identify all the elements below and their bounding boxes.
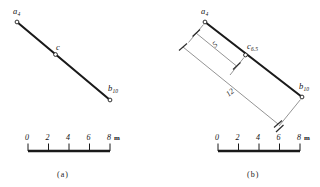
panel-a-scale-label-0: 0 xyxy=(25,133,29,142)
panel-b-scale-label-2: 2 xyxy=(236,133,240,142)
panel-b-label-a-text: a xyxy=(201,6,205,16)
panel-a-point-a-marker xyxy=(15,20,19,24)
panel-b-dimension-line-12 xyxy=(183,47,278,124)
panel-b-scale-unit: m xyxy=(304,134,310,142)
panel-b-label-a-subscript: 4 xyxy=(206,11,209,17)
panel-b-label-b: b10 xyxy=(299,81,309,91)
panel-b-caption: (b) xyxy=(247,170,259,179)
panel-a-scale-unit: m xyxy=(114,134,120,142)
panel-b-label-c: c6.5 xyxy=(247,41,258,51)
panel-b-point-c-marker xyxy=(244,53,248,57)
panel-b-scale-indicator-slash xyxy=(276,125,284,132)
panel-a-line-ab xyxy=(17,22,110,100)
panel-a-label-b: b10 xyxy=(108,83,118,93)
panel-a-label-a: a4 xyxy=(13,6,20,16)
panel-a-scale-label-2: 2 xyxy=(46,133,50,142)
panel-b-dimension-line-5 xyxy=(196,33,237,66)
panel-a-label-a-text: a xyxy=(13,6,17,16)
panel-a-scale-label-8: 8 xyxy=(107,133,111,142)
panel-a-point-c-marker xyxy=(54,53,58,57)
drawing-canvas xyxy=(0,0,320,187)
panel-b-scale-label-0: 0 xyxy=(215,133,219,142)
panel-a-label-b-subscript: 10 xyxy=(113,88,119,94)
panel-a-caption: (a) xyxy=(57,170,69,179)
panel-b-label-a: a4 xyxy=(201,6,208,16)
panel-a-point-b-marker xyxy=(108,98,112,102)
panel-a-scale-label-6: 6 xyxy=(87,133,91,142)
panel-b-point-b-marker xyxy=(300,95,304,99)
figure-sheet: a4 c b10 0 2 4 6 8 m (a) a4 c6.5 b10 5 1… xyxy=(0,0,320,187)
panel-b-scale-label-4: 4 xyxy=(256,133,260,142)
panel-a-label-b-text: b xyxy=(108,83,112,93)
panel-b-dimension-tick-5-end xyxy=(233,63,241,70)
panel-b-label-c-subscript: 6.5 xyxy=(251,46,258,52)
panel-a-label-c-text: c xyxy=(56,42,60,52)
panel-a-label-c: c xyxy=(56,42,60,52)
panel-b-extension-line-b xyxy=(279,100,301,127)
panel-a-scale-label-4: 4 xyxy=(66,133,70,142)
panel-b-line-ab xyxy=(205,22,302,97)
panel-b-point-a-marker xyxy=(203,20,207,24)
panel-b-label-b-text: b xyxy=(299,81,303,91)
panel-a-label-a-subscript: 4 xyxy=(18,11,21,17)
panel-b-scale-label-6: 6 xyxy=(277,133,281,142)
panel-b-label-b-subscript: 10 xyxy=(304,86,310,92)
panel-b-scale-label-8: 8 xyxy=(297,133,301,142)
